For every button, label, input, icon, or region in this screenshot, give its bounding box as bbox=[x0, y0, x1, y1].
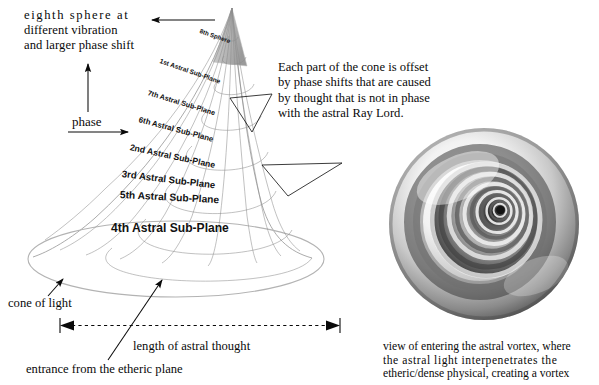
cone-label-8: 4th Astral Sub-Plane bbox=[111, 221, 229, 235]
heading-annotation: eighth sphere at different vibration and… bbox=[24, 8, 189, 54]
note-line-4: with the astral Ray Lord. bbox=[278, 106, 493, 121]
note-leader-lower bbox=[262, 163, 342, 196]
note-line-2: by phase shifts that are caused bbox=[278, 75, 493, 90]
phase-label: phase bbox=[72, 114, 102, 130]
note-annotation: Each part of the cone is offset by phase… bbox=[278, 60, 493, 121]
vortex-caption-line-3: etheric/dense physical, creating a vorte… bbox=[383, 367, 597, 381]
heading-line-3: and larger phase shift bbox=[24, 38, 189, 53]
length-of-astral-thought-label: length of astral thought bbox=[133, 339, 250, 354]
cone-of-light-label: cone of light bbox=[8, 296, 72, 311]
vortex-svg bbox=[386, 126, 582, 322]
note-line-3: by thought that is not in phase bbox=[278, 91, 493, 106]
vortex-caption: view of entering the astral vortex, wher… bbox=[383, 340, 597, 381]
astral-vortex-image bbox=[386, 126, 582, 322]
vortex-caption-line-2: the astral light interpenetrates the bbox=[383, 354, 597, 368]
dimension-line bbox=[60, 318, 340, 333]
heading-line-1: eighth sphere at bbox=[24, 8, 189, 23]
diagram-canvas: 8th Sphere1st Astral Sub-Plane7th Astral… bbox=[0, 0, 599, 385]
note-leader-upper bbox=[230, 94, 272, 132]
heading-line-2: different vibration bbox=[24, 23, 189, 38]
vortex-caption-line-1: view of entering the astral vortex, wher… bbox=[383, 340, 597, 354]
entrance-from-etheric-plane-label: entrance from the etheric plane bbox=[26, 362, 183, 377]
note-line-1: Each part of the cone is offset bbox=[278, 60, 493, 75]
